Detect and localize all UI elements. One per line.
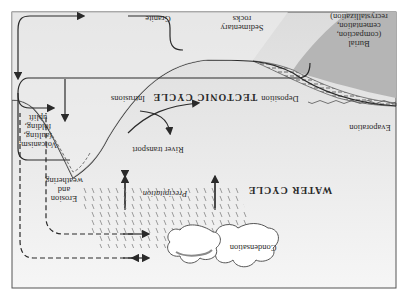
condensation-label: Condensation <box>229 243 276 253</box>
intrusions-label: Intrusions <box>111 94 145 104</box>
tectonic-cycle-title: TECTONIC CYCLE <box>153 92 258 103</box>
volcanism-label-4: uplift <box>28 113 47 123</box>
sedimentary-rocks-label-2: rocks <box>233 14 251 24</box>
granite-label: Granite <box>145 14 171 24</box>
erosion-label-3: weathering <box>44 176 83 186</box>
river-transport-label: River transport <box>132 145 184 155</box>
burial-label-4: recrystallization) <box>330 12 388 22</box>
deposition-label: Deposition <box>261 94 299 104</box>
rock-cycle-diagram: TECTONIC CYCLE WATER CYCLE Granite Sedim… <box>0 0 408 298</box>
water-cycle-title: WATER CYCLE <box>248 185 332 196</box>
evaporation-label: Evaporation <box>348 123 390 133</box>
precipitation-label: Precipitation <box>143 189 189 199</box>
